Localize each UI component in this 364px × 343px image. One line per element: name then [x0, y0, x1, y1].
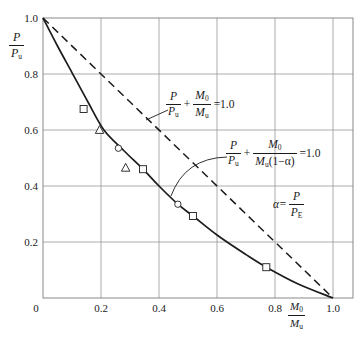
equals-value: =1.0 [300, 148, 321, 160]
annotation-amplified-equation: P Pu + M0 Mu(1−α) =1.0 [226, 139, 320, 168]
test-point-square [263, 264, 270, 271]
interaction-diagram-figure: 0.20.40.60.81.000.20.40.60.81.0 P Pu M0 … [0, 0, 364, 343]
test-point-square [80, 106, 87, 113]
x-tick-label: 1.0 [326, 302, 340, 314]
y-tick-label: 0.4 [24, 180, 38, 192]
leader-line-linear-eq [146, 110, 168, 120]
alpha-lhs: α= [273, 199, 287, 211]
plus-sign: + [184, 99, 191, 111]
x-tick-label: 0 [33, 302, 39, 314]
test-point-triangle [121, 163, 129, 171]
y-axis-label-numerator: P [11, 31, 22, 45]
equals-value: =1.0 [214, 99, 235, 111]
x-axis-label: M0 Mu [288, 301, 305, 330]
x-tick-label: 0.4 [152, 302, 166, 314]
test-point-circle [175, 201, 181, 207]
annotation-alpha-definition: α= P PE [273, 191, 304, 219]
test-point-square [140, 166, 147, 173]
x-tick-label: 0.6 [210, 302, 224, 314]
y-tick-label: 1.0 [24, 12, 38, 24]
y-tick-label: 0.2 [24, 236, 38, 248]
test-point-circle [115, 145, 121, 151]
annotation-linear-equation: P Pu + M0 Mu =1.0 [166, 90, 235, 119]
test-point-square [189, 212, 196, 219]
leader-curve-amplified-eq [171, 157, 227, 196]
y-axis-label: P Pu [9, 31, 24, 61]
x-tick-label: 0.8 [268, 302, 282, 314]
y-tick-label: 0.6 [24, 124, 38, 136]
plus-sign: + [244, 148, 251, 160]
interaction-chart: 0.20.40.60.81.000.20.40.60.81.0 [0, 0, 364, 343]
y-tick-label: 0.8 [24, 68, 38, 80]
x-tick-label: 0.2 [94, 302, 108, 314]
